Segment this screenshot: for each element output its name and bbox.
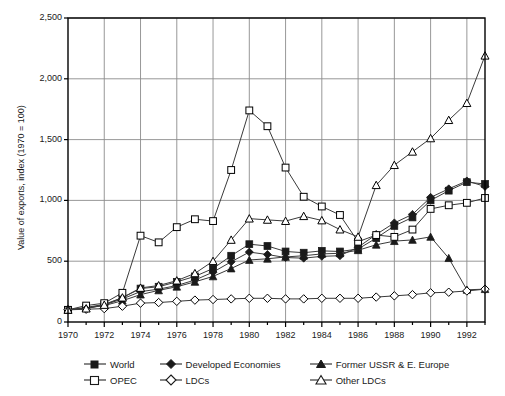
data-point	[427, 206, 434, 213]
legend-label-world: World	[110, 359, 135, 370]
data-point	[137, 232, 144, 239]
plot-background	[68, 18, 485, 322]
data-point	[246, 241, 253, 248]
legend-label-opec: OPEC	[110, 375, 137, 386]
open-diamond-icon	[160, 374, 182, 386]
data-point	[300, 193, 307, 200]
data-point	[282, 164, 289, 171]
legend-item-world: World	[84, 356, 160, 372]
open-triangle-icon	[310, 374, 332, 386]
data-point	[173, 224, 180, 231]
open-square-icon	[84, 374, 106, 386]
legend-label-ldcs: LDCs	[186, 375, 210, 386]
chart-legend: World Developed Economies Former USSR & …	[84, 356, 484, 388]
plot-area	[0, 0, 505, 396]
data-point	[264, 243, 271, 250]
data-point	[228, 167, 235, 174]
data-point	[192, 216, 199, 223]
data-point	[409, 226, 416, 233]
legend-item-ldcs: LDCs	[160, 372, 310, 388]
data-point	[318, 203, 325, 210]
data-point	[337, 212, 344, 219]
legend-item-other-ldcs: Other LDCs	[310, 372, 484, 388]
legend-row-1: World Developed Economies Former USSR & …	[84, 356, 484, 372]
legend-label-developed-economies: Developed Economies	[186, 359, 281, 370]
data-point	[463, 199, 470, 206]
filled-square-icon	[84, 358, 106, 370]
legend-item-developed-economies: Developed Economies	[160, 356, 310, 372]
data-point	[391, 233, 398, 240]
filled-triangle-icon	[310, 358, 332, 370]
data-point	[246, 107, 253, 114]
export-index-line-chart: Value of exports, index (1970 = 100) 050…	[0, 0, 505, 396]
legend-item-former-ussr: Former USSR & E. Europe	[310, 356, 484, 372]
legend-label-other-ldcs: Other LDCs	[336, 375, 386, 386]
legend-item-opec: OPEC	[84, 372, 160, 388]
legend-row-2: OPEC LDCs Other LDCs	[84, 372, 484, 388]
data-point	[445, 202, 452, 209]
legend-label-former-ussr: Former USSR & E. Europe	[336, 359, 450, 370]
data-point	[264, 123, 271, 130]
filled-diamond-icon	[160, 358, 182, 370]
data-point	[373, 232, 380, 239]
data-point	[210, 218, 217, 225]
data-point	[155, 239, 162, 246]
